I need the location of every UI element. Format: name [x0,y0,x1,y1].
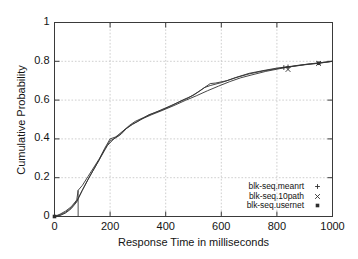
legend-label: blk-seq.usernet [247,201,304,210]
chart-legend: blk-seq.meanrtblk-seq.10pathblk-seq.user… [213,182,330,211]
y-tick-label: 0 [43,210,49,221]
legend-marker-cross-icon [304,192,330,201]
y-tick-label: 1 [43,16,49,27]
legend-key-glyph [315,204,319,208]
y-tick-label: 0.4 [34,132,49,143]
legend-label: blk-seq.10path [249,192,304,201]
legend-item: blk-seq.10path [213,192,330,201]
legend-item: blk-seq.usernet [213,201,330,210]
legend-marker-star-icon [304,201,330,210]
legend-label: blk-seq.meanrt [248,182,304,191]
y-axis-title: Cumulative Probability [16,65,27,174]
data-marker-series-2 [53,215,57,219]
y-tick-label: 0.2 [34,171,49,182]
data-marker-series-2 [317,61,321,65]
legend-marker-plus-icon [304,182,330,191]
y-tick-label: 0.6 [34,94,49,105]
legend-item: blk-seq.meanrt [213,182,330,191]
y-tick-label: 0.8 [34,55,49,66]
x-axis-title: Response Time in milliseconds [55,237,333,248]
cdf-chart-figure: 00.20.40.60.81 02004006008001000 Cumulat… [0,0,358,259]
